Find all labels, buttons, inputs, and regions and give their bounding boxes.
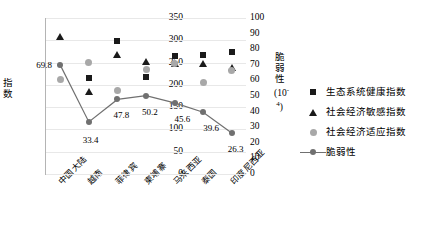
y-tick-label-right: 70 [250,60,270,70]
data-point-label: 45.6 [175,115,191,124]
legend-item[interactable]: 生态系统健康指数 [300,82,406,102]
data-point-label: 69.8 [36,61,52,70]
circle-marker [300,129,326,136]
y-tick-label-right: 40 [250,107,270,117]
triangle-marker [300,109,326,116]
line-marker [172,100,178,106]
y-axis-right-title-suffix: ) [280,102,283,112]
data-point-label: 47.8 [113,111,129,120]
plot-area: 69.833.447.850.245.639.626.3 [45,18,246,175]
legend-label: 脆弱性 [326,147,356,157]
data-point-label: 50.2 [142,108,158,117]
line-marker [86,119,92,125]
legend-label: 生态系统健康指数 [326,87,406,97]
legend-item[interactable]: 社会经济敏感指数 [300,102,406,122]
chart-legend: 生态系统健康指数社会经济敏感指数社会经济适应指数脆弱性 [300,82,406,162]
y-tick-label-right: 20 [250,138,270,148]
data-point-label: 26.3 [228,145,244,154]
y-tick-label-right: 60 [250,75,270,85]
y-tick-label-right: 100 [250,13,270,23]
line-marker [229,130,235,136]
square-marker [300,89,326,95]
legend-item[interactable]: 脆弱性 [300,142,406,162]
y-tick-label-right: 0 [250,169,270,179]
data-point-label: 39.6 [203,124,219,133]
y-tick-label-right: 50 [250,91,270,101]
y-axis-right-title-text: 脆弱性(10 [274,52,287,98]
line-marker [300,148,326,156]
y-axis-left-title: 指数 [2,78,13,100]
y-tick-label-right: 30 [250,122,270,132]
vulnerability-index-chart: 指数 脆弱性(10-4) 350300250200150100500 10090… [0,0,431,238]
data-point-label: 33.4 [83,136,99,145]
y-tick-label-right: 90 [250,29,270,39]
y-tick-label-right: 80 [250,44,270,54]
line-marker [143,93,149,99]
legend-label: 社会经济敏感指数 [326,107,406,117]
gridline [46,174,246,175]
y-axis-right-title: 脆弱性(10-4) [274,52,285,113]
legend-item[interactable]: 社会经济适应指数 [300,122,406,142]
legend-label: 社会经济适应指数 [326,127,406,137]
